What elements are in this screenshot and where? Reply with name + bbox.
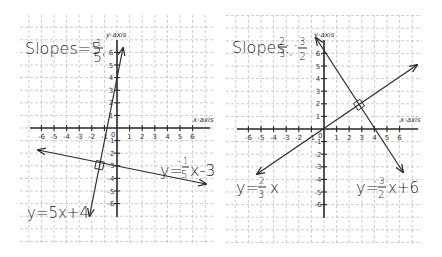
left-y-axis-label: y-axis [105,31,127,39]
right-title-frac2-den: 2 [299,50,306,63]
right-title-comma: , [289,44,293,58]
left-eq-label-2-frac-sign: - [178,157,181,166]
y-tick-label: -5 [108,188,115,196]
y-tick-label: 6 [109,49,114,57]
right-eq-label-2-frac-num: 3 [379,176,385,186]
y-tick-label: 6 [316,50,321,58]
y-tick-label: -6 [108,200,116,208]
right-title-frac2-sign: - [294,40,297,50]
y-tick-label: -5 [315,189,322,197]
right-title-frac2-num: 3 [299,36,305,47]
x-tick-label: 3 [153,133,157,141]
left-eq-label-2-suffix: x-3 [190,161,215,180]
right-eq-label-1-frac-num: 2 [259,176,265,186]
right-graph-panel: -6-5-4-3-2-1123456123456-1-2-3-4-5-6 y-a… [226,15,422,243]
line-y-neg-three-halves-x-plus-6 [316,38,403,172]
right-title-frac1-num: 2 [279,36,285,47]
x-tick-label: 6 [397,134,402,142]
y-tick-label: 5 [109,62,113,70]
x-tick-label: -5 [258,134,265,142]
x-tick-label: -2 [88,133,95,141]
right-y-axis-label: y-axis [313,31,335,39]
right-eq-label-2-suffix: x+6 [388,179,419,197]
right-eq-label-1-frac-den: 3 [258,189,264,200]
y-tick-label: -2 [108,150,115,158]
x-tick-label: 5 [385,134,389,142]
y-tick-label: -2 [315,151,322,159]
x-tick-label: 3 [360,134,364,142]
x-tick-label: 1 [334,134,338,142]
x-tick-label: 2 [347,134,351,142]
x-tick-label: -5 [51,133,58,141]
left-eq-label-2-frac-num: 1 [183,157,188,166]
y-tick-label: 3 [316,88,320,96]
y-tick-label: 3 [109,87,113,95]
y-tick-label: -3 [315,163,322,171]
x-tick-label: -2 [295,134,302,142]
right-title-frac1-den: 3 [279,48,285,59]
right-origin-label: 0 [318,132,322,140]
x-tick-label: 6 [190,133,195,141]
right-eq-label-2-frac-den: 2 [378,189,384,200]
y-tick-label: -4 [108,175,116,183]
right-eq-label-1-prefix: y= [236,178,259,197]
y-tick-label: 2 [316,100,320,108]
x-tick-label: -4 [270,134,278,142]
x-tick-label: 4 [372,134,377,142]
y-tick-label: 5 [316,63,320,71]
right-eq-label-1-suffix: x [270,179,279,197]
left-title-frac-den: 5 [93,49,102,65]
x-tick-label: 2 [140,133,144,141]
right-x-axis-label: x-axis [399,116,421,124]
y-tick-label: 1 [316,113,320,121]
x-tick-label: 1 [127,133,131,141]
y-tick-label: -3 [108,162,115,170]
left-origin-label: 0 [111,131,115,139]
left-graph-panel: -6-5-4-3-2-1123456123456-1-2-3-4-5-6 y-a… [20,15,215,243]
perpendicular-lines-diagram: -6-5-4-3-2-1123456123456-1-2-3-4-5-6 y-a… [0,0,442,257]
x-tick-label: -6 [38,133,46,141]
x-tick-label: -4 [63,133,71,141]
x-tick-label: -3 [76,133,83,141]
y-tick-label: 4 [109,74,114,82]
x-tick-label: -6 [245,134,253,142]
x-tick-label: 4 [165,133,170,141]
y-tick-label: -6 [315,201,323,209]
left-eq-label-1: y=5x+4 [27,204,89,222]
x-tick-label: 5 [178,133,182,141]
right-eq-label-2-frac-sign: - [374,177,377,186]
left-eq-label-2-frac-den: 5 [181,169,187,180]
left-title-frac-num: 1 [96,38,102,48]
x-tick-label: -3 [283,134,290,142]
left-title-frac-sign: - [90,38,93,48]
y-tick-label: 4 [316,75,321,83]
left-x-axis-label: x-axis [192,116,214,124]
y-tick-label: -4 [315,176,323,184]
